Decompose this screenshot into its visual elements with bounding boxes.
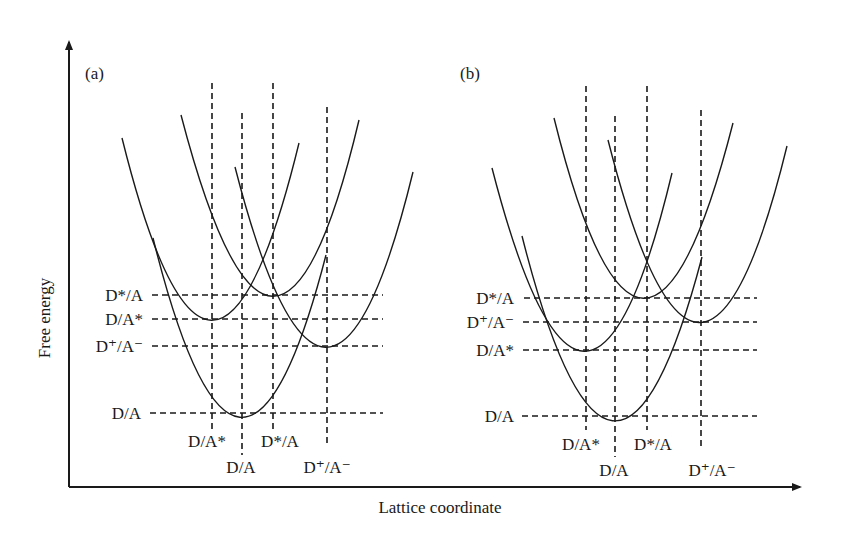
panel-a: (a) D*/A D/A* D⁺/A⁻ D/A D/A* D/A D*/A D⁺… [85, 64, 413, 477]
panel-b: (b) D*/A D⁺/A⁻ D/A* D/A D/A* D/A D*/A D⁺… [460, 64, 787, 480]
level-label-d-star-a: D*/A [476, 289, 515, 308]
level-label-d-plus-a-minus: D⁺/A⁻ [96, 337, 143, 356]
panel-a-label: (a) [85, 64, 104, 83]
curve-d-a [522, 236, 702, 421]
coord-label-d-star-a: D*/A [634, 435, 673, 454]
coord-label-d-a-star: D/A* [562, 435, 600, 454]
coord-label-d-a: D/A [599, 461, 629, 480]
coord-label-d-plus-a-minus: D⁺/A⁻ [688, 461, 735, 480]
level-label-d-plus-a-minus: D⁺/A⁻ [467, 313, 514, 332]
free-energy-diagram: Free energy Lattice coordinate (a) D*/A … [0, 0, 862, 536]
panel-b-label: (b) [460, 64, 480, 83]
x-axis-title: Lattice coordinate [378, 498, 501, 517]
level-label-d-a-star: D/A* [476, 341, 514, 360]
level-label-d-a: D/A [112, 404, 142, 423]
level-label-d-a: D/A [485, 407, 515, 426]
y-axis-title: Free energy [35, 277, 54, 358]
axes: Free energy Lattice coordinate [35, 42, 800, 517]
curve-d-star-a [181, 115, 359, 296]
curve-d-a-star [492, 168, 672, 351]
coord-label-d-a-star: D/A* [188, 432, 226, 451]
coord-label-d-a: D/A [226, 458, 256, 477]
coord-label-d-plus-a-minus: D⁺/A⁻ [303, 458, 350, 477]
curve-d-plus-a-minus [235, 167, 413, 347]
level-label-d-a-star: D/A* [105, 310, 143, 329]
curve-d-a [153, 238, 326, 417]
level-label-d-star-a: D*/A [105, 286, 144, 305]
coord-label-d-star-a: D*/A [261, 432, 300, 451]
